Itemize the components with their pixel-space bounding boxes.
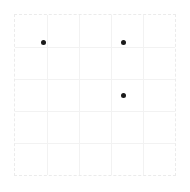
scatter-point[interactable] [121,93,126,98]
chart-figure [0,0,190,192]
data-points-layer [15,15,175,175]
scatter-point[interactable] [121,40,126,45]
scatter-plot-area[interactable] [14,14,176,176]
scatter-point[interactable] [41,40,46,45]
